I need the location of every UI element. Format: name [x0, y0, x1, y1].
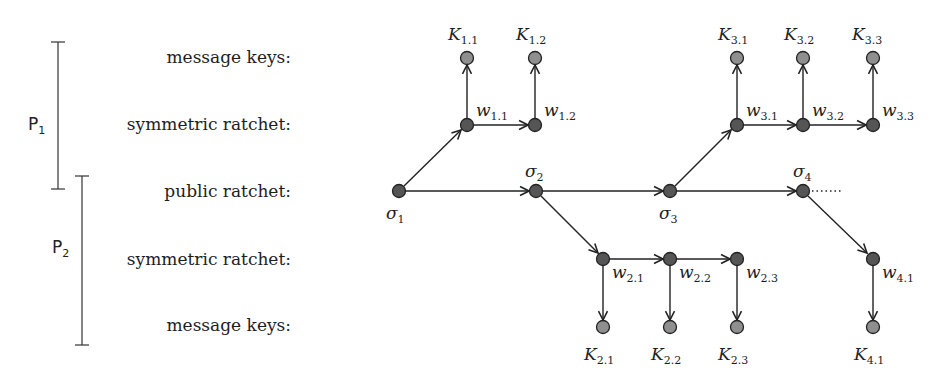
node-k22: [664, 321, 677, 334]
node-sigma4: [797, 185, 810, 198]
label-w33: w3.3: [882, 100, 914, 123]
label-sigma2: σ2: [525, 161, 544, 184]
node-w33: [867, 119, 880, 132]
label-w31: w3.1: [746, 100, 778, 123]
node-k31: [731, 52, 744, 65]
node-w11: [461, 119, 474, 132]
party-label-p2: P2: [52, 237, 69, 260]
label-w32: w3.2: [812, 100, 844, 123]
double-ratchet-diagram: message keys: symmetric ratchet: public …: [0, 0, 951, 382]
row-label-public-ratchet: public ratchet:: [164, 181, 291, 201]
label-w23: w2.3: [746, 262, 778, 285]
party-label-p1: P1: [28, 114, 45, 137]
label-sigma1: σ1: [386, 203, 405, 226]
label-k22: K2.2: [651, 344, 681, 367]
node-k21: [597, 321, 610, 334]
node-w31: [731, 119, 744, 132]
label-k11: K1.1: [448, 24, 478, 47]
label-w21: w2.1: [612, 262, 644, 285]
row-label-symmetric-ratchet-bottom: symmetric ratchet:: [127, 249, 291, 269]
row-label-symmetric-ratchet-top: symmetric ratchet:: [127, 114, 291, 134]
row-label-message-keys-top: message keys:: [166, 47, 291, 67]
label-k21: K2.1: [584, 344, 614, 367]
label-w11: w1.1: [476, 100, 508, 123]
node-sigma3: [664, 185, 677, 198]
node-w32: [797, 119, 810, 132]
label-w22: w2.2: [679, 262, 711, 285]
node-k11: [461, 52, 474, 65]
edge-sigma1-w11: [404, 130, 461, 186]
label-k12: K1.2: [516, 24, 546, 47]
label-sigma3: σ3: [659, 203, 678, 226]
ratchet-nodes: [393, 119, 880, 266]
party-bar-p2: [75, 176, 89, 345]
node-w22: [664, 253, 677, 266]
node-w21: [597, 253, 610, 266]
node-k23: [731, 321, 744, 334]
node-w23: [731, 253, 744, 266]
node-k41: [867, 321, 880, 334]
node-sigma2: [530, 185, 543, 198]
node-k12: [529, 52, 542, 65]
label-sigma4: σ4: [793, 161, 812, 184]
node-sigma1: [393, 185, 406, 198]
row-label-message-keys-bottom: message keys:: [166, 315, 291, 335]
node-w41: [867, 253, 880, 266]
label-w41: w4.1: [882, 262, 914, 285]
label-k32: K3.2: [784, 24, 814, 47]
label-w12: w1.2: [544, 100, 576, 123]
node-k32: [797, 52, 810, 65]
label-k31: K3.1: [718, 24, 748, 47]
edge-sigma4-w41: [808, 196, 867, 253]
node-k33: [867, 52, 880, 65]
label-k41: K4.1: [854, 344, 884, 367]
node-w12: [529, 119, 542, 132]
label-k33: K3.3: [852, 24, 882, 47]
label-k23: K2.3: [718, 344, 748, 367]
edge-sigma3-w31: [675, 130, 731, 186]
edge-sigma2-w21: [541, 196, 598, 253]
diagram-graphics: [0, 0, 951, 382]
party-bar-p1: [51, 42, 65, 189]
